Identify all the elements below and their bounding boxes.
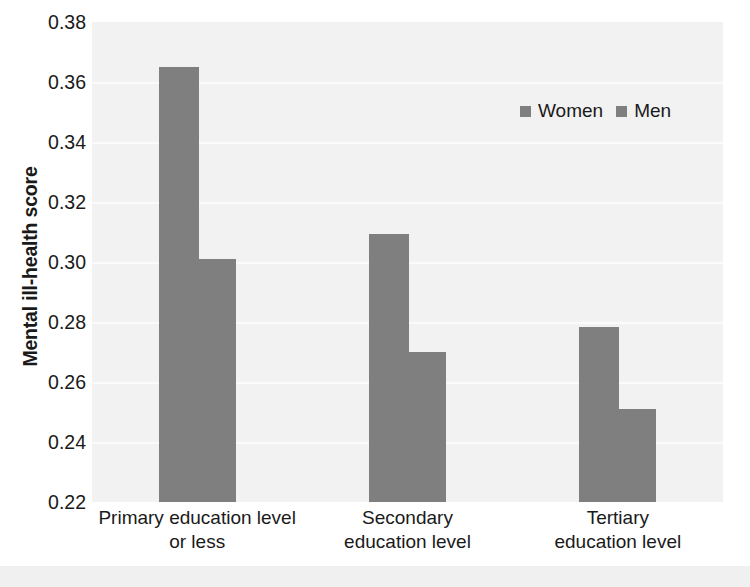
y-axis-tick-label: 0.38 — [24, 13, 86, 33]
x-axis-category-label: Secondary education level — [302, 506, 512, 568]
y-axis-tick-label: 0.34 — [24, 133, 86, 153]
bar — [579, 327, 619, 503]
chart-legend: WomenMen — [520, 100, 671, 122]
bar — [369, 234, 409, 503]
legend-label: Women — [538, 100, 603, 122]
y-axis-tick-label: 0.32 — [24, 193, 86, 213]
bar — [619, 409, 656, 502]
bar — [409, 352, 446, 502]
legend-swatch-icon — [520, 106, 531, 117]
y-axis-tick-label: 0.26 — [24, 373, 86, 393]
y-axis-tick-labels: 0.380.360.340.320.300.280.260.240.22 — [20, 0, 86, 587]
legend-item[interactable]: Women — [520, 100, 603, 122]
legend-swatch-icon — [616, 106, 627, 117]
plot-area — [92, 22, 723, 502]
y-axis-tick-label: 0.28 — [24, 313, 86, 333]
y-axis-tick-label: 0.22 — [24, 493, 86, 513]
y-axis-tick-label: 0.36 — [24, 73, 86, 93]
x-axis-tick-labels: Primary education level or lessSecondary… — [92, 506, 723, 568]
x-axis-category-label: Tertiary education level — [513, 506, 723, 568]
bar — [199, 259, 236, 502]
page-bottom-strip — [0, 566, 750, 587]
y-axis-tick-label: 0.30 — [24, 253, 86, 273]
y-axis-tick-label: 0.24 — [24, 433, 86, 453]
bar — [159, 67, 199, 502]
chart-figure: Mental ill-health score 0.380.360.340.32… — [0, 0, 750, 587]
legend-item[interactable]: Men — [616, 100, 671, 122]
legend-label: Men — [634, 100, 671, 122]
x-axis-category-label: Primary education level or less — [92, 506, 302, 568]
